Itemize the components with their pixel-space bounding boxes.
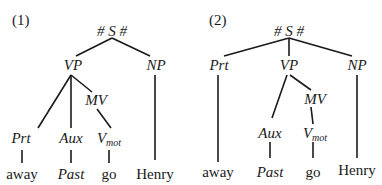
tree-2-past: Past: [257, 165, 284, 180]
tree-2-root-s: # S #: [274, 24, 304, 39]
tree-2-mv: MV: [304, 92, 326, 107]
tree-1-prt: Prt: [11, 131, 30, 146]
tree-2-go: go: [306, 165, 321, 180]
tree-2-aux: Aux: [258, 126, 281, 141]
tree-2-vp: VP: [280, 58, 298, 73]
tree-1-np: NP: [146, 58, 165, 73]
tree-2-vmot: Vmot: [303, 126, 327, 143]
tree-2-away: away: [202, 165, 234, 180]
tree-1-mv: MV: [85, 93, 107, 108]
tree-1-vmot: Vmot: [97, 131, 121, 148]
tree-2-np: NP: [347, 58, 366, 73]
tree-2-henry: Henry: [338, 163, 376, 178]
tree-1-root-s: # S #: [97, 24, 127, 39]
tree-1-away: away: [6, 167, 38, 182]
tree-1-go: go: [102, 167, 117, 182]
tree-1-henry: Henry: [136, 167, 174, 182]
tree-2-number: (2): [209, 13, 227, 28]
tree-2-prt: Prt: [209, 58, 228, 73]
tree-1-number: (1): [12, 13, 30, 28]
tree-1-past: Past: [58, 167, 85, 182]
tree-1-aux: Aux: [59, 131, 82, 146]
tree-1-vp: VP: [64, 58, 82, 73]
